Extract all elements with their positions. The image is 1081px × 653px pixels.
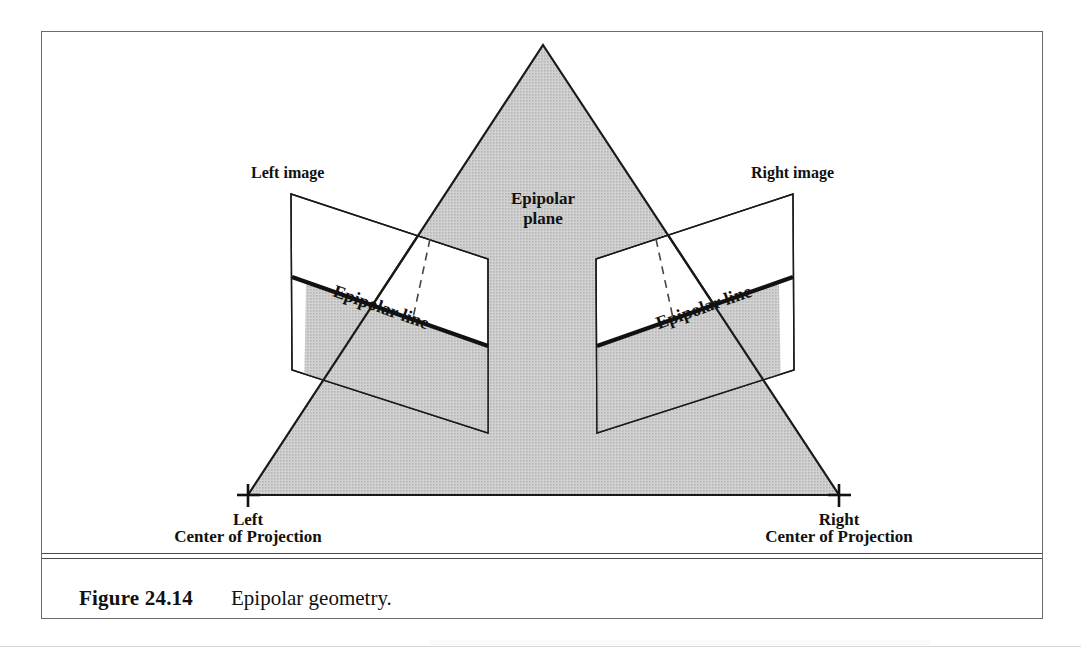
epipolar-plane-label-line1: Epipolar (511, 189, 576, 208)
figure-frame: Left image Right image Epipolar plane Ep… (41, 31, 1043, 619)
epipolar-geometry-diagram: Left image Right image Epipolar plane Ep… (42, 32, 1044, 552)
left-image-label: Left image (251, 164, 324, 182)
figure-caption-text: Epipolar geometry. (231, 586, 392, 611)
right-cop-label-line2: Center of Projection (765, 527, 913, 546)
left-cop-label-line2: Center of Projection (174, 527, 322, 546)
figure-caption: Figure 24.14 Epipolar geometry. (42, 577, 1042, 619)
caption-divider (42, 553, 1042, 559)
page-root: Left image Right image Epipolar plane Ep… (0, 0, 1081, 653)
scan-artifact-line (0, 646, 1081, 647)
figure-number: Figure 24.14 (79, 586, 193, 611)
right-image-label: Right image (751, 164, 834, 182)
epipolar-plane-label-line2: plane (523, 209, 563, 228)
